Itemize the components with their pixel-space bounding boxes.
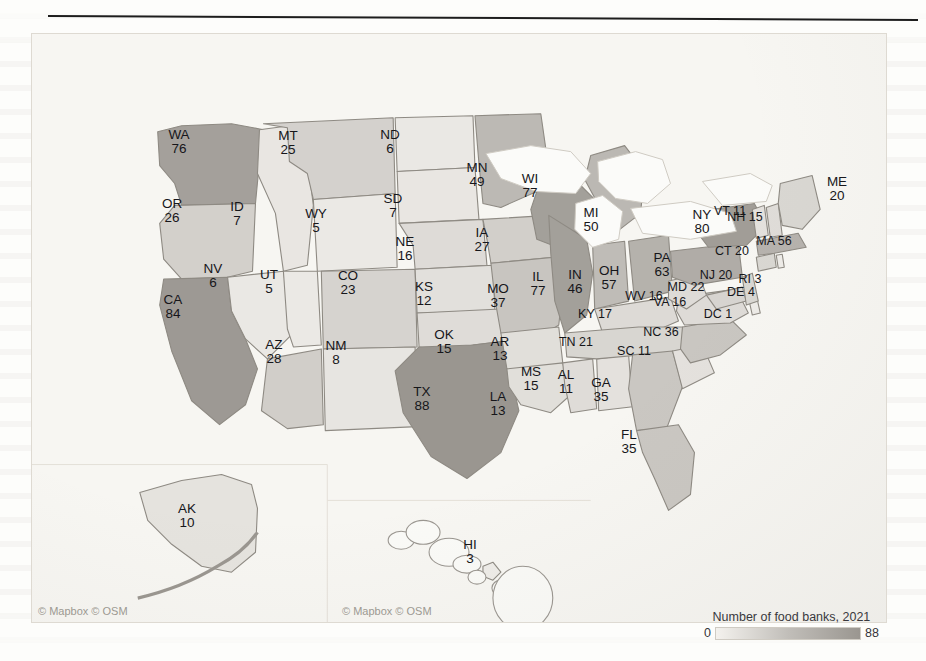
- state-wy[interactable]: [313, 193, 397, 271]
- state-ms[interactable]: [563, 359, 597, 413]
- hawaii-islet-5: [468, 570, 486, 584]
- state-shapes: [32, 114, 820, 622]
- state-nc[interactable]: [680, 319, 746, 363]
- attribution-main: © Mapbox © OSM: [38, 605, 128, 617]
- choropleth-map[interactable]: WA76OR26CA84NV6ID7MT25WY5UT5AZ28CO23NM8N…: [31, 33, 887, 623]
- state-tx[interactable]: [395, 341, 519, 479]
- hawaii-islet-2: [406, 520, 440, 544]
- state-co[interactable]: [321, 269, 417, 349]
- state-me[interactable]: [778, 176, 820, 230]
- state-al[interactable]: [597, 355, 633, 411]
- state-ak[interactable]: [140, 475, 258, 573]
- state-nd[interactable]: [395, 116, 475, 172]
- page-divider-rule: [48, 15, 918, 21]
- state-az[interactable]: [261, 349, 323, 429]
- legend-scale: 0 88: [704, 626, 879, 640]
- state-ga[interactable]: [629, 351, 683, 431]
- legend-min-label: 0: [704, 626, 711, 640]
- state-ne[interactable]: [399, 219, 487, 269]
- map-geometry: [32, 34, 886, 622]
- legend-gradient-bar: [715, 627, 861, 640]
- state-pa[interactable]: [671, 243, 743, 285]
- state-fl[interactable]: [637, 425, 695, 511]
- legend-max-label: 88: [865, 626, 879, 640]
- state-ri[interactable]: [776, 254, 784, 268]
- state-oh[interactable]: [629, 235, 673, 301]
- state-wa[interactable]: [158, 124, 264, 206]
- hawaii-islet-7: [493, 566, 553, 622]
- state-ks[interactable]: [415, 265, 495, 313]
- attribution-inset: © Mapbox © OSM: [342, 605, 432, 617]
- state-in[interactable]: [593, 241, 629, 309]
- state-or[interactable]: [160, 203, 256, 279]
- state-ut[interactable]: [283, 271, 321, 347]
- state-sd[interactable]: [397, 168, 479, 224]
- legend-title: Number of food banks, 2021: [704, 610, 879, 624]
- legend: Number of food banks, 2021 0 88: [704, 610, 879, 640]
- state-ct[interactable]: [756, 253, 776, 271]
